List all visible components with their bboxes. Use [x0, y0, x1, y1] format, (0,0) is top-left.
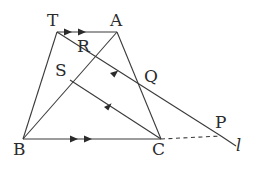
segment-TB [23, 32, 57, 139]
point-label-B: B [13, 141, 26, 158]
point-label-S: S [55, 62, 67, 79]
arrow-mark-cq-1 [110, 70, 118, 77]
point-label-C: C [152, 141, 165, 158]
point-label-P: P [215, 114, 226, 131]
geometry-diagram: T A R S Q B C P l [0, 0, 254, 176]
point-label-T: T [47, 12, 58, 29]
arrow-mark-bc-2 [84, 136, 92, 143]
segment-CP-dashed [161, 136, 221, 139]
arrow-mark-bc-1 [70, 136, 78, 143]
point-label-Q: Q [144, 68, 158, 85]
line-l [221, 136, 236, 146]
arrow-mark-ta-2 [78, 29, 86, 36]
line-label-l: l [236, 138, 241, 154]
point-label-R: R [77, 38, 90, 55]
segment-AB [23, 32, 117, 139]
arrow-mark-ta-1 [64, 29, 72, 36]
diagram-canvas [0, 0, 254, 176]
point-label-A: A [110, 12, 122, 29]
